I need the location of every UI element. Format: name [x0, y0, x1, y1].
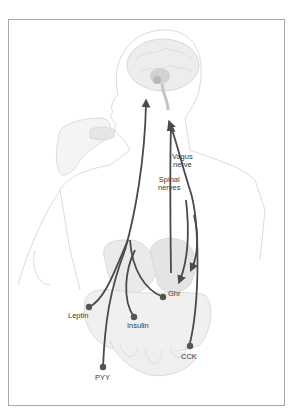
hand-illustration [56, 118, 115, 175]
vagus-nerve-label: Vagus nerve [172, 153, 193, 169]
anatomy-illustration [0, 0, 299, 419]
vagus-line2: nerve [172, 161, 193, 169]
cck-label: CCK [181, 353, 197, 361]
pyy-node [100, 364, 106, 370]
pyy-label: PYY [95, 374, 110, 382]
spinal-line2: nerves [158, 184, 181, 192]
leptin-label: Leptin [68, 312, 88, 320]
cck-node [187, 343, 193, 349]
ghr-node [160, 294, 166, 300]
leptin-node [86, 304, 92, 310]
insulin-label: Insulin [127, 322, 149, 330]
brain-illustration [127, 39, 199, 110]
spinal-nerves-label: Spinal nerves [158, 176, 181, 192]
insulin-node [131, 314, 137, 320]
ghr-label: Ghr [168, 290, 181, 298]
